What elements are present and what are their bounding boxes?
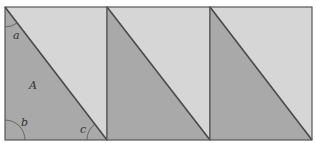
label-angle-b: b [21, 116, 28, 129]
label-angle-c: c [80, 123, 86, 136]
label-angle-a: a [13, 29, 20, 42]
panel-2 [107, 7, 210, 140]
panel-3 [210, 7, 312, 140]
label-area-A: A [28, 79, 37, 92]
triangle-figure: a A b c [0, 0, 316, 143]
panel-1: a A b c [5, 7, 107, 140]
